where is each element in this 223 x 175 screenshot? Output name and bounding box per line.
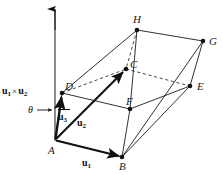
vertex-label-H: H <box>133 14 141 25</box>
vertex-label-C: C <box>130 59 137 70</box>
vertex-dot-C <box>124 67 129 72</box>
vertex-label-G: G <box>209 36 217 47</box>
u3-overbar <box>58 109 70 110</box>
vertex-dot-F <box>128 107 133 112</box>
vertex-label-B: B <box>119 161 126 172</box>
vertex-dot-G <box>201 39 206 44</box>
vector-label-u3: u3 <box>58 112 67 124</box>
vertex-dot-B <box>120 155 125 160</box>
edge-F-E <box>130 86 190 109</box>
theta-label: θ <box>28 105 33 115</box>
edge-D-H <box>62 30 137 93</box>
edge-C-E <box>126 69 190 86</box>
figure-canvas <box>0 0 223 175</box>
vertex-dot-D <box>60 91 65 96</box>
vector-u1-arrow <box>56 141 119 157</box>
vertex-label-A: A <box>48 145 55 156</box>
vertex-label-D: D <box>65 81 73 92</box>
vertex-dot-H <box>135 28 140 33</box>
cross-product-u2-sub: 2 <box>24 90 28 98</box>
vector-label-u2: u2 <box>77 118 86 130</box>
vector-label-u1: u1 <box>82 158 91 170</box>
vertex-label-E: E <box>197 81 204 92</box>
vector-label-u1-sub: 1 <box>88 162 92 170</box>
edge-H-G <box>137 30 203 41</box>
vector-label-u2-sub: 2 <box>83 122 87 130</box>
parallelepiped-figure: A B C D E F G H u1 u2 u3 u1×u2 θ <box>0 0 223 175</box>
vertex-label-F: F <box>126 96 133 107</box>
vertex-dots <box>60 28 206 160</box>
cross-product-label: u1×u2 <box>2 86 27 98</box>
vertex-dot-E <box>188 84 193 89</box>
parallelepiped-solid-edges <box>55 30 203 157</box>
vector-label-u3-sub: 3 <box>64 116 68 124</box>
edge-D-F <box>62 93 130 109</box>
